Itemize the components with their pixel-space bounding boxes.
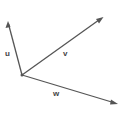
vector-w: w (22, 75, 118, 105)
vector-diagram: u v w (0, 0, 120, 114)
vector-u-label: u (5, 49, 10, 58)
vector-u: u (5, 21, 22, 75)
vector-w-label: w (52, 89, 60, 98)
origin-point (21, 74, 24, 77)
vector-v: v (22, 17, 104, 75)
vector-v-label: v (63, 49, 68, 58)
